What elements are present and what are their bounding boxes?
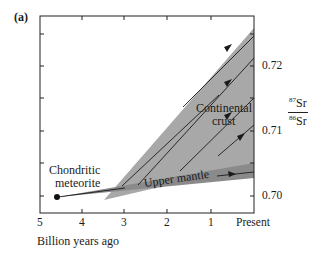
chondritic-meteorite-point [54, 194, 60, 200]
x-tick-5: 5 [37, 216, 43, 228]
continental-crust-label-2: crust [212, 114, 235, 129]
x-tick-1: 1 [208, 216, 214, 228]
x-tick-2: 2 [164, 216, 170, 228]
panel-label: (a) [14, 10, 28, 25]
numerator-mass: 87 [289, 96, 296, 104]
denominator: Sr [296, 114, 307, 128]
y-tick-071: 0.71 [262, 124, 282, 136]
y-ticks-left [40, 34, 44, 196]
x-tick-3: 3 [121, 216, 127, 228]
y-axis-label: 87Sr 86Sr [288, 96, 308, 129]
y-tick-072: 0.72 [262, 59, 282, 71]
x-tick-present: Present [236, 216, 270, 228]
numerator: Sr [296, 96, 307, 110]
meteorite-label: meteorite [55, 176, 100, 191]
y-tick-070: 0.70 [262, 189, 282, 201]
x-axis-label: Billion years ago [37, 234, 119, 249]
x-tick-4: 4 [79, 216, 85, 228]
denominator-mass: 86 [289, 114, 296, 122]
